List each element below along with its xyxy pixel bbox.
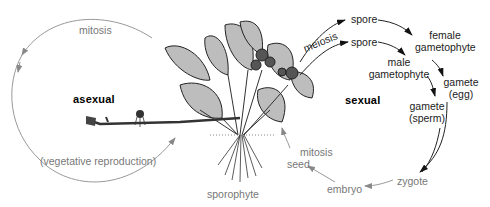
asexual-heading: asexual	[73, 93, 115, 105]
sporophyte-label: sporophyte	[207, 188, 259, 200]
gamete-egg-line2: (egg)	[441, 88, 481, 100]
zygote-label: zygote	[397, 175, 428, 187]
female-gametophyte-line1: female	[415, 29, 475, 41]
male-gametophyte-line1: male	[364, 56, 434, 68]
asexual-mitosis-label: mitosis	[79, 24, 112, 36]
male-gametophyte-label: male gametophyte	[364, 56, 434, 80]
development-arrows	[282, 128, 393, 186]
seed-label: seed	[287, 158, 310, 170]
gamete-sperm-label: gamete (sperm)	[405, 100, 449, 124]
spore-bottom-label: spore	[351, 36, 377, 48]
vegetative-reproduction-label: (vegetative reproduction)	[40, 155, 156, 167]
female-gametophyte-label: female gametophyte	[415, 29, 475, 53]
male-gametophyte-line2: gametophyte	[364, 68, 434, 80]
gamete-egg-line1: gamete	[441, 76, 481, 88]
seed-mitosis-label: mitosis	[300, 146, 333, 158]
embryo-label: embryo	[327, 183, 362, 195]
spore-top-label: spore	[351, 13, 377, 25]
gamete-egg-label: gamete (egg)	[441, 76, 481, 100]
gamete-sperm-line2: (sperm)	[405, 112, 449, 124]
female-gametophyte-line2: gametophyte	[415, 41, 475, 53]
gamete-sperm-line1: gamete	[405, 100, 449, 112]
sexual-heading: sexual	[345, 94, 380, 106]
